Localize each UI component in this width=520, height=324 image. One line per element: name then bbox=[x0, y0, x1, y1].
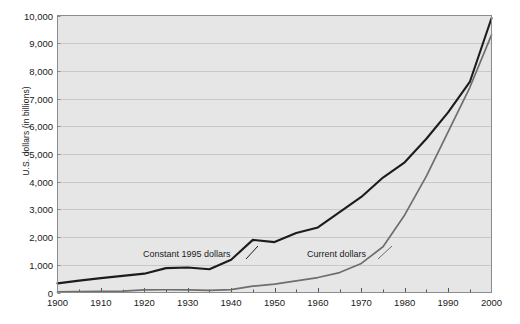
x-tick-label-1930: 1930 bbox=[177, 297, 198, 308]
x-tick-label-1910: 1910 bbox=[90, 297, 111, 308]
series-lines-group bbox=[58, 18, 492, 292]
x-tick-label-2000: 2000 bbox=[481, 297, 502, 308]
series-line-current-dollars bbox=[58, 35, 492, 292]
series-line-constant-1995-dollars bbox=[58, 18, 492, 283]
y-axis-tick-labels: 01,0002,0003,0004,0005,0006,0007,0008,00… bbox=[0, 0, 53, 324]
gridlines-group bbox=[58, 44, 492, 266]
y-tick-label-5000: 5,000 bbox=[1, 149, 53, 160]
chart-canvas bbox=[0, 0, 520, 324]
y-tick-label-3000: 3,000 bbox=[1, 204, 53, 215]
x-tick-label-1970: 1970 bbox=[351, 297, 372, 308]
series-label-constant-1995-dollars: Constant 1995 dollars bbox=[143, 249, 231, 259]
annotation-leader-constant bbox=[246, 246, 258, 259]
x-tick-label-1980: 1980 bbox=[394, 297, 415, 308]
y-tick-label-4000: 4,000 bbox=[1, 176, 53, 187]
y-tick-label-0: 0 bbox=[1, 287, 53, 298]
x-tick-label-1960: 1960 bbox=[307, 297, 328, 308]
x-tick-label-1940: 1940 bbox=[221, 297, 242, 308]
x-tick-label-1950: 1950 bbox=[264, 297, 285, 308]
y-tick-label-10000: 10,000 bbox=[1, 10, 53, 21]
y-tick-label-2000: 2,000 bbox=[1, 232, 53, 243]
y-tick-label-7000: 7,000 bbox=[1, 93, 53, 104]
line-chart: U.S. dollars (in billions) 01,0002,0003,… bbox=[0, 0, 520, 324]
x-tick-label-1900: 1900 bbox=[47, 297, 68, 308]
y-tick-label-6000: 6,000 bbox=[1, 121, 53, 132]
x-tick-label-1920: 1920 bbox=[134, 297, 155, 308]
x-tick-label-1990: 1990 bbox=[438, 297, 459, 308]
y-tick-label-1000: 1,000 bbox=[1, 259, 53, 270]
y-tick-label-9000: 9,000 bbox=[1, 38, 53, 49]
series-label-current-dollars: Current dollars bbox=[307, 249, 366, 259]
y-tick-label-8000: 8,000 bbox=[1, 65, 53, 76]
